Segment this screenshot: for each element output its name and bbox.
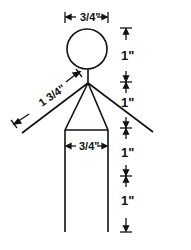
vertical-label-4: 1" <box>121 193 134 208</box>
arrowhead-icon <box>66 15 71 20</box>
arrowhead-icon <box>124 76 129 81</box>
arm-length-label: 1 3/4" <box>36 82 67 109</box>
vertical-label-3: 1" <box>121 145 134 160</box>
arrowhead-icon <box>124 226 129 231</box>
torso-left-line <box>65 83 88 130</box>
body-width-label: 3/4" <box>79 140 100 152</box>
stick-figure-diagram: 3/4" 3/4" 1 3/4" <box>0 0 191 250</box>
head-width-label: 3/4" <box>80 11 101 23</box>
arrowhead-icon <box>124 29 129 34</box>
arrowhead-icon <box>102 144 107 149</box>
vertical-label-1: 1" <box>121 48 134 63</box>
vertical-label-2: 1" <box>121 95 134 110</box>
arrowhead-icon <box>124 129 129 134</box>
arrowhead-icon <box>124 170 129 175</box>
arrowhead-icon <box>124 122 129 127</box>
arrowhead-icon <box>66 144 71 149</box>
head-circle <box>67 29 107 69</box>
arrowhead-icon <box>102 15 107 20</box>
arrowhead-icon <box>124 177 129 182</box>
arrowhead-icon <box>124 83 129 88</box>
